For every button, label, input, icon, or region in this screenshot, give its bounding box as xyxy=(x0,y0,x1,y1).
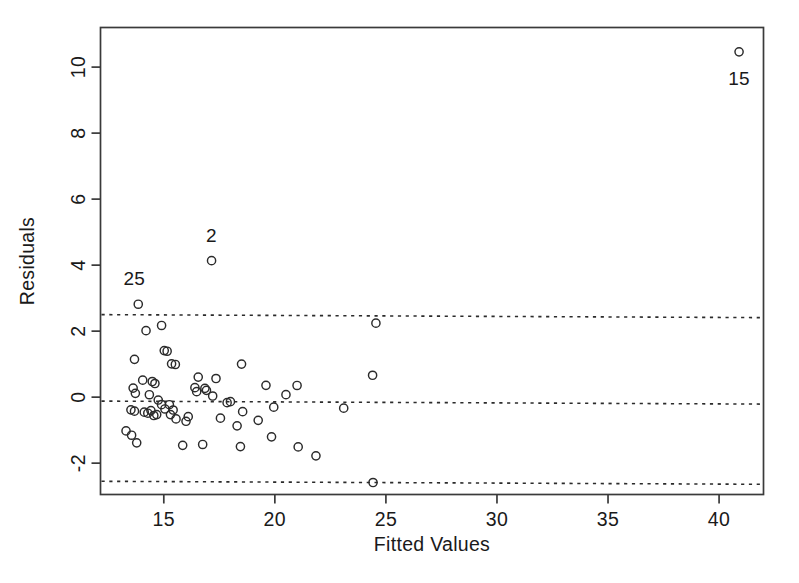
point-annotations: 15225 xyxy=(123,68,750,289)
data-point xyxy=(142,327,150,335)
x-tick-label-35: 35 xyxy=(597,508,620,530)
data-point xyxy=(254,416,262,424)
data-point xyxy=(148,377,156,385)
data-point xyxy=(194,373,202,381)
x-tick-label-15: 15 xyxy=(153,508,176,530)
data-point xyxy=(131,389,139,397)
data-point xyxy=(282,391,290,399)
data-point xyxy=(262,381,270,389)
data-point xyxy=(239,408,247,416)
data-point xyxy=(270,403,278,411)
data-point xyxy=(372,319,380,327)
data-point xyxy=(209,392,217,400)
data-point xyxy=(368,371,376,379)
y-tick-label-0: 0 xyxy=(68,392,90,403)
x-tick-label-25: 25 xyxy=(375,508,398,530)
data-point xyxy=(340,404,348,412)
data-point xyxy=(128,431,136,439)
data-point xyxy=(237,360,245,368)
data-point xyxy=(233,422,241,430)
x-tick-label-30: 30 xyxy=(486,508,509,530)
data-point xyxy=(130,355,138,363)
data-point xyxy=(199,440,207,448)
y-tick-label-10: 10 xyxy=(68,56,90,79)
y-tick-label-6: 6 xyxy=(68,193,90,204)
data-point xyxy=(236,443,244,451)
y-tick-label-4: 4 xyxy=(68,260,90,271)
data-point xyxy=(179,441,187,449)
data-point xyxy=(312,452,320,460)
data-point xyxy=(212,374,220,382)
plot-canvas: 15225 152025303540 -20246810 Fitted Valu… xyxy=(0,0,799,583)
data-point xyxy=(216,414,224,422)
data-point xyxy=(735,48,743,56)
data-point xyxy=(151,379,159,387)
point-label-2: 2 xyxy=(206,225,217,246)
data-point xyxy=(145,391,153,399)
data-point xyxy=(267,433,275,441)
point-label-25: 25 xyxy=(123,268,145,289)
data-point xyxy=(172,415,180,423)
y-tick-label-8: 8 xyxy=(68,127,90,138)
y-tick-label-2: 2 xyxy=(68,326,90,337)
data-point xyxy=(134,300,142,308)
x-tick-label-20: 20 xyxy=(264,508,287,530)
reference-line-mean-line xyxy=(102,401,763,404)
data-point xyxy=(129,384,137,392)
x-axis: 152025303540 xyxy=(153,495,731,530)
data-point xyxy=(133,439,141,447)
y-tick-label--2: -2 xyxy=(68,454,90,472)
data-point xyxy=(207,257,215,265)
x-axis-title: Fitted Values xyxy=(374,533,490,555)
data-point xyxy=(293,381,301,389)
plot-frame xyxy=(101,28,764,495)
x-tick-label-40: 40 xyxy=(708,508,731,530)
point-label-15: 15 xyxy=(728,68,750,89)
y-axis-title: Residuals xyxy=(16,217,38,305)
reference-line-lower-band xyxy=(102,481,763,484)
data-point xyxy=(122,427,130,435)
data-point xyxy=(294,443,302,451)
reference-line-upper-band xyxy=(102,315,763,318)
data-point xyxy=(157,321,165,329)
data-point xyxy=(139,376,147,384)
y-axis: -20246810 xyxy=(68,56,101,472)
residual-plot-figure: 15225 152025303540 -20246810 Fitted Valu… xyxy=(0,0,799,583)
scatter-points xyxy=(122,48,743,487)
reference-lines xyxy=(102,315,763,485)
